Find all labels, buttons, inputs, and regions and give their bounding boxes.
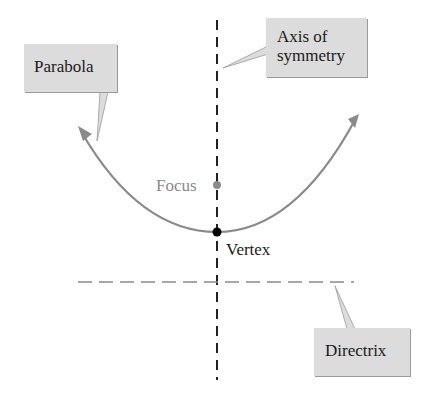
axis-of-symmetry-callout: Axis of symmetry — [266, 18, 367, 77]
axis-callout-pointer — [223, 46, 268, 68]
vertex-label: Vertex — [226, 240, 270, 260]
focus-point — [213, 181, 221, 189]
directrix-callout: Directrix — [314, 328, 410, 376]
directrix-label: Directrix — [325, 341, 386, 360]
parabola-curve — [82, 120, 355, 232]
axis-label-line1: Axis of — [277, 27, 367, 46]
parabola-label: Parabola — [34, 57, 93, 76]
parabola-callout: Parabola — [24, 44, 117, 92]
directrix-callout-pointer — [335, 286, 355, 329]
axis-label-line2: symmetry — [277, 46, 367, 65]
vertex-point — [213, 228, 222, 237]
left-arrowhead-icon — [78, 126, 92, 141]
parabola-callout-pointer — [97, 92, 108, 141]
focus-label: Focus — [156, 176, 197, 196]
right-arrowhead-icon — [348, 114, 359, 128]
